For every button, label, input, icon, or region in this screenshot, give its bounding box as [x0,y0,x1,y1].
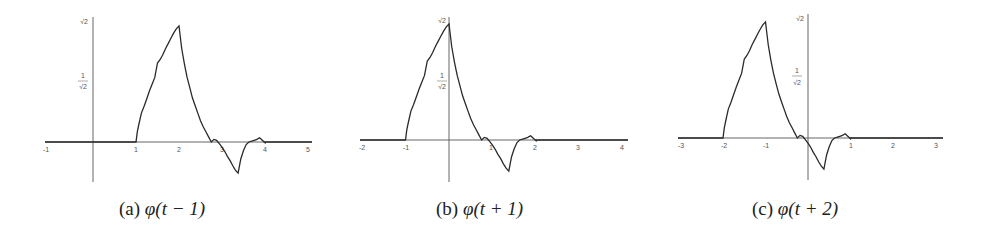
svg-text:-2: -2 [721,142,727,149]
svg-text:√2: √2 [796,15,804,22]
panel-c: -3 -2 -1 1 2 3 √2 1 √2 (c) φ(t + 2) [0,0,983,232]
svg-text:-1: -1 [763,142,769,149]
svg-text:-3: -3 [678,142,684,149]
caption-c: (c) φ(t + 2) [752,198,838,220]
svg-text:1: 1 [849,142,853,149]
svg-text:2: 2 [891,142,895,149]
plot-c: -3 -2 -1 1 2 3 √2 1 √2 [0,0,983,195]
svg-text:√2: √2 [793,79,801,86]
svg-text:3: 3 [934,142,938,149]
svg-text:1: 1 [795,67,799,74]
curve-phi-t-plus-2 [678,22,943,169]
y-tick-labels: √2 1 √2 [792,15,804,86]
